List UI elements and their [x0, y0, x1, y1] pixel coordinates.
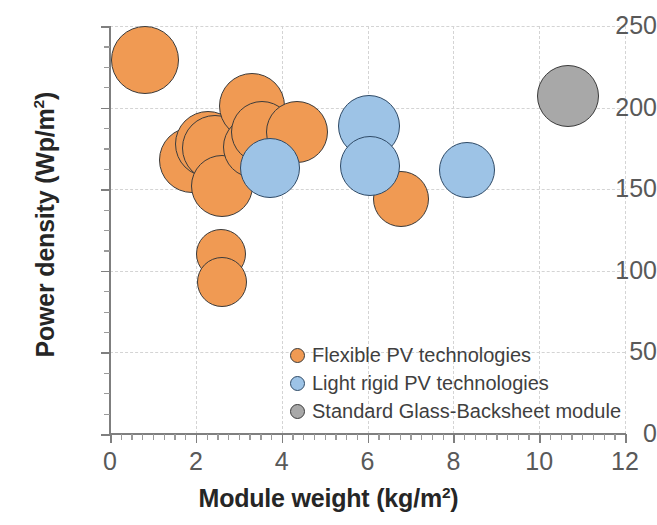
x-minor-tick [389, 434, 390, 440]
y-minor-tick [104, 250, 110, 251]
y-minor-tick [104, 169, 110, 170]
y-axis-title-superscript: 2 [30, 100, 47, 108]
x-minor-tick [207, 434, 208, 440]
x-minor-tick [475, 434, 476, 440]
x-minor-tick [142, 434, 143, 440]
x-minor-tick [561, 434, 562, 440]
legend-marker-icon [290, 376, 305, 391]
legend-item-label: Flexible PV technologies [312, 345, 531, 365]
x-minor-tick [131, 434, 132, 440]
x-tick-mark [539, 434, 541, 443]
y-tick-mark [101, 26, 110, 28]
x-axis-title-text: Module weight (kg/m [199, 484, 442, 512]
y-minor-tick [104, 414, 110, 415]
x-minor-tick [464, 434, 465, 440]
x-tick-label: 6 [338, 449, 398, 474]
y-minor-tick [104, 46, 110, 47]
y-minor-tick [104, 230, 110, 231]
x-axis-title-tail: ) [450, 484, 458, 512]
y-axis-title: Power density (Wp/m2) [30, 10, 59, 440]
legend-marker-icon [290, 348, 305, 363]
y-tick-mark [101, 108, 110, 110]
legend-item[interactable]: Flexible PV technologies [290, 341, 621, 369]
x-axis-title: Module weight (kg/m2) [0, 484, 657, 513]
x-minor-tick [325, 434, 326, 440]
x-tick-mark [110, 434, 112, 443]
x-tick-label: 2 [166, 449, 226, 474]
legend-item-label: Light rigid PV technologies [312, 373, 549, 393]
y-minor-tick [104, 148, 110, 149]
x-minor-tick [496, 434, 497, 440]
x-tick-label: 4 [252, 449, 312, 474]
y-tick-mark [101, 434, 110, 436]
x-tick-mark [368, 434, 370, 443]
legend-item[interactable]: Standard Glass-Backsheet module [290, 397, 621, 425]
y-minor-tick [104, 332, 110, 333]
y-minor-tick [104, 67, 110, 68]
legend: Flexible PV technologiesLight rigid PV t… [290, 341, 621, 425]
y-axis-title-tail: ) [31, 92, 59, 100]
x-minor-tick [378, 434, 379, 440]
x-tick-label: 12 [595, 449, 655, 474]
legend-marker-icon [290, 404, 305, 419]
x-minor-tick [486, 434, 487, 440]
x-minor-tick [335, 434, 336, 440]
scatter-chart: 050100150200250024681012 Module weight (… [0, 0, 657, 525]
x-minor-tick [400, 434, 401, 440]
y-axis-title-text: Power density (Wp/m [31, 108, 59, 357]
y-tick-label: 150 [561, 176, 657, 201]
legend-item-label: Standard Glass-Backsheet module [312, 401, 621, 421]
y-minor-tick [104, 128, 110, 129]
x-minor-tick [432, 434, 433, 440]
x-minor-tick [550, 434, 551, 440]
x-minor-tick [507, 434, 508, 440]
data-point-bubble [197, 257, 247, 307]
x-minor-tick [410, 434, 411, 440]
y-minor-tick [104, 291, 110, 292]
y-minor-tick [104, 373, 110, 374]
x-minor-tick [271, 434, 272, 440]
data-point-bubble [111, 26, 179, 94]
y-tick-mark [101, 189, 110, 191]
data-point-bubble [439, 142, 495, 198]
data-point-bubble [240, 138, 300, 198]
y-tick-label: 200 [561, 95, 657, 120]
y-tick-mark [101, 352, 110, 354]
x-tick-mark [282, 434, 284, 443]
legend-item[interactable]: Light rigid PV technologies [290, 369, 621, 397]
x-minor-tick [604, 434, 605, 440]
x-tick-label: 0 [80, 449, 140, 474]
x-minor-tick [292, 434, 293, 440]
y-minor-tick [104, 87, 110, 88]
y-tick-mark [101, 271, 110, 273]
x-tick-label: 8 [423, 449, 483, 474]
x-minor-tick [174, 434, 175, 440]
x-minor-tick [239, 434, 240, 440]
x-minor-tick [314, 434, 315, 440]
x-minor-tick [571, 434, 572, 440]
data-point-bubble [340, 136, 400, 196]
x-minor-tick [421, 434, 422, 440]
x-minor-tick [582, 434, 583, 440]
x-minor-tick [518, 434, 519, 440]
y-minor-tick [104, 210, 110, 211]
x-tick-mark [625, 434, 627, 443]
x-minor-tick [153, 434, 154, 440]
y-minor-tick [104, 393, 110, 394]
x-minor-tick [121, 434, 122, 440]
x-tick-mark [453, 434, 455, 443]
x-minor-tick [443, 434, 444, 440]
y-tick-label: 250 [561, 13, 657, 38]
x-minor-tick [303, 434, 304, 440]
x-minor-tick [614, 434, 615, 440]
x-tick-label: 10 [509, 449, 569, 474]
x-minor-tick [217, 434, 218, 440]
x-minor-tick [249, 434, 250, 440]
x-minor-tick [260, 434, 261, 440]
x-minor-tick [593, 434, 594, 440]
gridline-vertical [625, 26, 626, 434]
y-minor-tick [104, 312, 110, 313]
x-tick-mark [196, 434, 198, 443]
x-minor-tick [528, 434, 529, 440]
y-tick-label: 100 [561, 258, 657, 283]
